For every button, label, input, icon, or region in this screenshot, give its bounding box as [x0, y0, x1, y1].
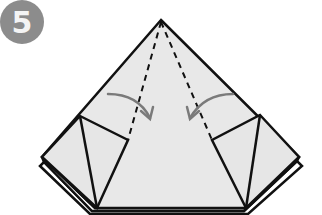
origami-step-diagram: 5	[0, 0, 322, 215]
origami-diagram	[0, 0, 322, 215]
